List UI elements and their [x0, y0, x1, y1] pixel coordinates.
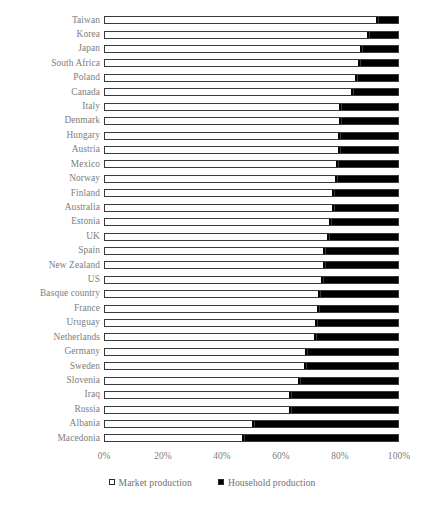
category-label: South Africa — [0, 59, 100, 68]
bar-segment-market-production — [105, 104, 341, 110]
category-label: Macedonia — [0, 434, 100, 443]
segment-divider — [337, 176, 338, 182]
stacked-bar — [104, 348, 399, 356]
chart-row: Japan — [0, 42, 424, 56]
segment-divider — [244, 435, 245, 441]
chart-row: Norway — [0, 172, 424, 186]
segment-divider — [323, 277, 324, 283]
stacked-bar — [104, 391, 399, 399]
x-tick-label: 100% — [388, 451, 410, 461]
category-label: Estonia — [0, 217, 100, 226]
segment-divider — [325, 262, 326, 268]
bar-segment-household-production — [376, 17, 398, 23]
category-label: Mexico — [0, 160, 100, 169]
bar-segment-market-production — [105, 349, 307, 355]
segment-divider — [340, 133, 341, 139]
stacked-bar — [104, 420, 399, 428]
stacked-bar — [104, 290, 399, 298]
chart-row: Hungary — [0, 128, 424, 142]
chart-row: US — [0, 273, 424, 287]
segment-divider — [291, 392, 292, 398]
stacked-bar — [104, 247, 399, 255]
bar-segment-household-production — [318, 291, 398, 297]
segment-divider — [329, 234, 330, 240]
bar-segment-household-production — [351, 89, 398, 95]
segment-divider — [378, 17, 379, 23]
chart-row: Austria — [0, 143, 424, 157]
segment-divider — [341, 104, 342, 110]
segment-divider — [320, 291, 321, 297]
segment-divider — [334, 205, 335, 211]
chart-row: Korea — [0, 27, 424, 41]
bar-segment-household-production — [304, 363, 398, 369]
open-square-icon — [109, 479, 115, 485]
chart-row: France — [0, 301, 424, 315]
stacked-bar — [104, 377, 399, 385]
segment-divider — [325, 248, 326, 254]
bar-segment-market-production — [105, 277, 323, 283]
segment-divider — [340, 147, 341, 153]
bar-segment-household-production — [332, 205, 398, 211]
bar-segment-household-production — [336, 161, 398, 167]
stacked-bar — [104, 276, 399, 284]
bar-segment-household-production — [305, 349, 398, 355]
legend-label: Household production — [228, 477, 316, 488]
bar-segment-market-production — [105, 118, 341, 124]
bar-segment-household-production — [298, 378, 398, 384]
chart-row: UK — [0, 229, 424, 243]
chart-row: Canada — [0, 85, 424, 99]
bar-segment-market-production — [105, 32, 369, 38]
stacked-bar — [104, 74, 399, 82]
chart-row: Slovenia — [0, 374, 424, 388]
stacked-bar — [104, 406, 399, 414]
chart-row: Finland — [0, 186, 424, 200]
bar-segment-household-production — [315, 320, 398, 326]
bar-segment-market-production — [105, 46, 362, 52]
bar-segment-household-production — [338, 133, 398, 139]
bar-segment-household-production — [289, 407, 398, 413]
segment-divider — [334, 190, 335, 196]
bar-segment-market-production — [105, 176, 337, 182]
category-label: Hungary — [0, 131, 100, 140]
chart-row: Sweden — [0, 359, 424, 373]
bar-segment-household-production — [338, 147, 398, 153]
legend-label: Market production — [119, 477, 192, 488]
category-label: Denmark — [0, 116, 100, 125]
bar-segment-household-production — [339, 104, 398, 110]
segment-divider — [362, 46, 363, 52]
segment-divider — [300, 378, 301, 384]
category-label: Germany — [0, 347, 100, 356]
bar-segment-market-production — [105, 363, 306, 369]
stacked-bar — [104, 160, 399, 168]
bar-segment-market-production — [105, 161, 338, 167]
category-label: Finland — [0, 189, 100, 198]
stacked-bar — [104, 362, 399, 370]
chart-row: Australia — [0, 200, 424, 214]
bar-segment-household-production — [367, 32, 398, 38]
chart-row: Russia — [0, 402, 424, 416]
bar-segment-household-production — [355, 75, 398, 81]
chart-row: Albania — [0, 417, 424, 431]
bar-segment-household-production — [314, 334, 398, 340]
bar-segment-household-production — [335, 176, 398, 182]
bar-segment-household-production — [323, 262, 398, 268]
stacked-bar — [104, 204, 399, 212]
bar-segment-household-production — [289, 392, 398, 398]
stacked-bar — [104, 103, 399, 111]
segment-divider — [338, 161, 339, 167]
chart-legend: Market productionHousehold production — [0, 473, 424, 491]
chart-row: Spain — [0, 244, 424, 258]
bar-segment-market-production — [105, 435, 244, 441]
stacked-bar — [104, 88, 399, 96]
x-tick-label: 20% — [154, 451, 172, 461]
bar-segment-market-production — [105, 190, 334, 196]
segment-divider — [369, 32, 370, 38]
chart-row: South Africa — [0, 56, 424, 70]
bar-segment-market-production — [105, 248, 325, 254]
segment-divider — [319, 306, 320, 312]
stacked-bar-chart: TaiwanKoreaJapanSouth AfricaPolandCanada… — [0, 0, 424, 505]
segment-divider — [254, 421, 255, 427]
bar-segment-market-production — [105, 133, 340, 139]
stacked-bar — [104, 175, 399, 183]
filled-square-icon — [218, 479, 224, 485]
